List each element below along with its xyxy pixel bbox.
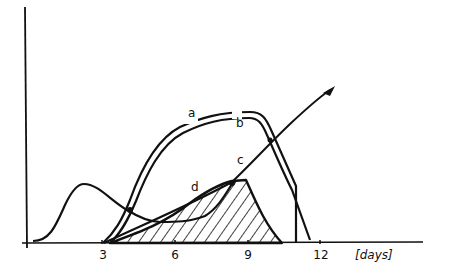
x-axis-unit-label: [days]	[355, 248, 393, 262]
x-tick-label-3: 3	[99, 248, 107, 262]
x-tick-label-6: 6	[171, 248, 179, 262]
x-tick-label-9: 9	[244, 248, 252, 262]
curve-label-a: a	[188, 107, 195, 119]
curve-label-d: d	[191, 181, 199, 193]
x-tick-label-12: 12	[313, 248, 328, 262]
y-axis	[25, 7, 27, 248]
curve-label-c: c	[237, 154, 244, 166]
chart-canvas	[0, 0, 450, 280]
curve-label-b: b	[236, 117, 244, 129]
